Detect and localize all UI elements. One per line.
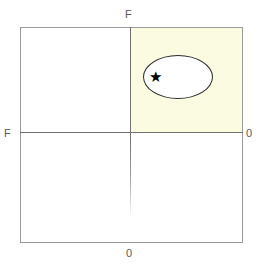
axis-label-bottom: 0: [126, 247, 132, 259]
horizontal-axis-line: [20, 132, 243, 133]
axis-label-left: F: [4, 127, 11, 139]
vertical-axis-line: [130, 27, 131, 217]
star-marker: ★: [148, 70, 162, 84]
axis-label-top: F: [125, 8, 132, 20]
quadrant-diagram: ★ F F 0 0: [0, 0, 257, 267]
axis-label-right: 0: [246, 127, 252, 139]
